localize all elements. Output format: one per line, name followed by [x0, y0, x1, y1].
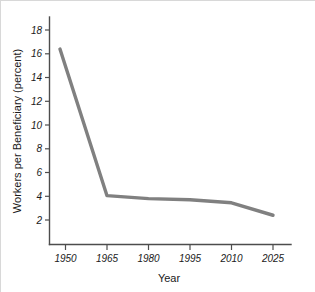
x-tick-label: 2025: [261, 253, 285, 264]
y-tick-label: 14: [31, 72, 43, 83]
x-tick-label: 1980: [137, 253, 160, 264]
x-tick-label: 1995: [179, 253, 202, 264]
chart-svg: 2 4 6 8 10 12 14 16 18 1950: [1, 1, 315, 292]
x-tick-label: 1965: [96, 253, 119, 264]
y-tick-label: 16: [31, 48, 43, 59]
chart-background: [1, 1, 315, 292]
y-tick-label: 4: [36, 191, 42, 202]
x-tick-label: 2010: [219, 253, 243, 264]
chart-page: 2 4 6 8 10 12 14 16 18 1950: [0, 0, 315, 292]
x-axis-title: Year: [158, 272, 181, 284]
y-tick-label: 12: [31, 96, 43, 107]
y-tick-label: 18: [31, 25, 43, 36]
x-tick-label: 1950: [54, 253, 77, 264]
y-tick-label: 10: [31, 120, 43, 131]
line-chart-figure: 2 4 6 8 10 12 14 16 18 1950: [1, 1, 315, 292]
y-axis-title: Workers per Beneficiary (percent): [11, 49, 23, 213]
y-tick-label: 6: [36, 167, 42, 178]
y-tick-label: 8: [36, 143, 42, 154]
y-tick-label: 2: [35, 215, 42, 226]
